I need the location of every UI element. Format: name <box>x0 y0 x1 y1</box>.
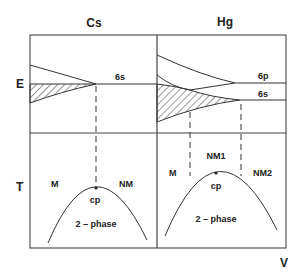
cs-occupied-band <box>30 84 96 103</box>
hg-6p-label: 6p <box>258 71 269 81</box>
energy-axis-label: E <box>16 77 24 91</box>
hg-critical-point <box>214 171 217 174</box>
temperature-axis-label: T <box>16 180 24 194</box>
hg-region-nm2: NM2 <box>253 168 272 178</box>
cs-title: Cs <box>86 16 102 30</box>
hg-region-metal: M <box>169 168 177 178</box>
cs-cp-label: cp <box>90 195 101 205</box>
hg-two-phase-label: 2 – phase <box>195 214 236 224</box>
volume-axis-label: V <box>280 256 288 270</box>
frame <box>30 35 286 248</box>
hg-occupied-band <box>157 84 240 122</box>
cs-two-phase-label: 2 – phase <box>75 219 116 229</box>
hg-6s-label: 6s <box>258 89 268 99</box>
hg-upper-curve <box>157 55 235 83</box>
cs-6s-label: 6s <box>115 72 125 82</box>
cs-upper-band-edge <box>30 65 96 84</box>
hg-cp-label: cp <box>211 181 222 191</box>
cs-region-metal: M <box>51 179 59 189</box>
hg-rising-line <box>190 83 235 90</box>
hg-title: Hg <box>217 15 233 29</box>
cs-region-nonmetal: NM <box>119 179 133 189</box>
hg-region-nm1: NM1 <box>206 151 225 161</box>
band-phase-diagram: Cs Hg E T V 6s 6p 6s M NM cp 2 – phase M… <box>0 0 301 275</box>
cs-energy-panel <box>30 65 157 186</box>
cs-critical-point <box>94 186 97 189</box>
